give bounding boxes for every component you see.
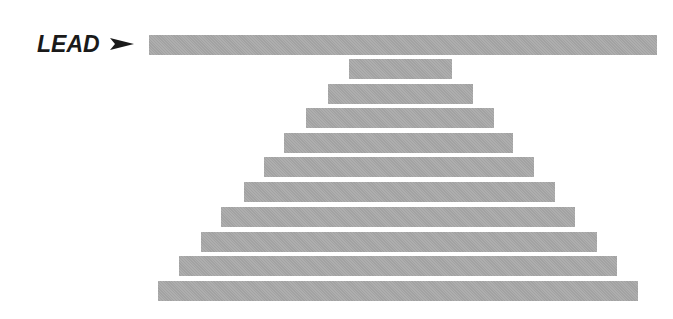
lead-label: LEAD	[37, 32, 100, 56]
pyramid-bar	[158, 281, 638, 301]
pyramid-bar	[201, 232, 597, 252]
pyramid-bar	[349, 59, 452, 79]
pyramid-bar	[328, 84, 473, 104]
pyramid-bar	[264, 157, 534, 177]
pyramid-bar	[284, 133, 513, 153]
pyramid-bar	[244, 182, 555, 202]
pyramid-bar	[221, 207, 575, 227]
pyramid-bar	[306, 108, 494, 128]
pyramid-diagram: LEAD	[0, 0, 673, 319]
lead-bar	[149, 35, 657, 55]
right-arrowhead-icon	[110, 38, 134, 50]
pyramid-bar	[179, 256, 617, 276]
